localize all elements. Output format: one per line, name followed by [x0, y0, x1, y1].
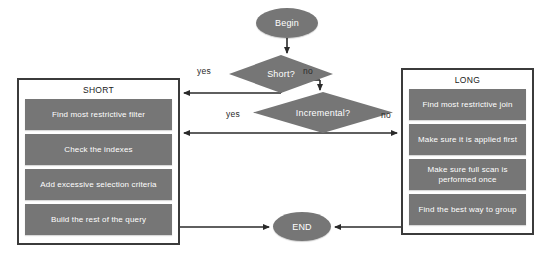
- branch-title-short: SHORT: [25, 85, 172, 95]
- end-node[interactable]: END: [273, 212, 331, 241]
- begin-node[interactable]: Begin: [256, 8, 318, 38]
- step-short-3[interactable]: Add excessive selection criteria: [25, 169, 172, 200]
- branch-title-long: LONG: [409, 75, 526, 85]
- edge-label-incremental-yes: yes: [226, 109, 240, 119]
- decision-incremental-label: Incremental?: [253, 92, 393, 133]
- flowchart-canvas: Begin Short? Incremental? yes no yes no …: [0, 0, 555, 264]
- step-long-2[interactable]: Make sure it is applied first: [409, 124, 526, 155]
- edge-label-short-no: no: [303, 66, 313, 76]
- branch-container-long: LONG Find most restrictive join Make sur…: [401, 68, 534, 235]
- step-short-2[interactable]: Check the indexes: [25, 134, 172, 165]
- edge-label-incremental-no: no: [381, 110, 391, 120]
- decision-short-label: Short?: [229, 55, 333, 93]
- step-short-1[interactable]: Find most restrictive filter: [25, 99, 172, 130]
- step-short-4[interactable]: Build the rest of the query: [25, 204, 172, 235]
- end-label: END: [292, 222, 312, 232]
- decision-short[interactable]: Short?: [229, 55, 333, 93]
- decision-incremental[interactable]: Incremental?: [253, 92, 393, 133]
- begin-label: Begin: [275, 18, 299, 28]
- edge-label-short-yes: yes: [197, 66, 211, 76]
- step-long-4[interactable]: Find the best way to group: [409, 194, 526, 225]
- step-long-1[interactable]: Find most restrictive join: [409, 89, 526, 120]
- branch-container-short: SHORT Find most restrictive filter Check…: [17, 78, 180, 245]
- step-long-3[interactable]: Make sure full scan is performed once: [409, 159, 526, 190]
